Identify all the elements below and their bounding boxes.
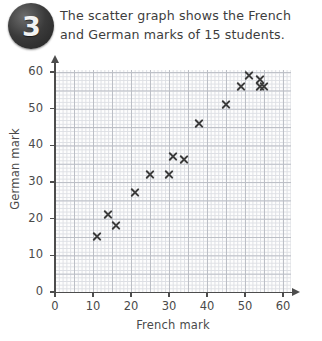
x-tick bbox=[54, 292, 55, 297]
scatter-chart: 0102030405060 0102030405060 French mark … bbox=[0, 52, 322, 341]
data-point bbox=[145, 169, 156, 180]
y-tick-label: 50 bbox=[3, 101, 43, 115]
question-number-badge: 3 bbox=[8, 3, 54, 49]
y-tick bbox=[50, 71, 55, 72]
x-tick bbox=[282, 292, 283, 297]
data-point bbox=[129, 187, 140, 198]
data-point bbox=[194, 118, 205, 129]
x-tick-label: 50 bbox=[230, 299, 260, 313]
data-point bbox=[179, 154, 190, 165]
x-tick-label: 40 bbox=[192, 299, 222, 313]
y-axis-title: German mark bbox=[8, 123, 22, 215]
question-text: The scatter graph shows the French and G… bbox=[60, 6, 318, 44]
data-point bbox=[221, 99, 232, 110]
data-point bbox=[236, 81, 247, 92]
y-axis-line bbox=[54, 62, 56, 293]
question-text-line-2: and German marks of 15 students. bbox=[60, 25, 318, 44]
question-text-line-1: The scatter graph shows the French bbox=[60, 6, 318, 25]
x-tick-label: 20 bbox=[116, 299, 146, 313]
data-point bbox=[110, 220, 121, 231]
data-point bbox=[243, 70, 254, 81]
x-tick-label: 60 bbox=[268, 299, 298, 313]
question-number: 3 bbox=[8, 3, 54, 49]
x-tick-label: 30 bbox=[154, 299, 184, 313]
x-axis-title: French mark bbox=[55, 318, 291, 332]
data-point bbox=[259, 81, 270, 92]
data-point bbox=[164, 169, 175, 180]
y-tick bbox=[50, 255, 55, 256]
x-tick-label: 10 bbox=[78, 299, 108, 313]
question-header: 3 The scatter graph shows the French and… bbox=[0, 0, 322, 52]
x-axis-arrow-icon bbox=[292, 288, 300, 296]
data-point bbox=[91, 231, 102, 242]
y-tick-label: 0 bbox=[3, 284, 43, 298]
y-tick bbox=[50, 145, 55, 146]
x-tick bbox=[92, 292, 93, 297]
y-tick-label: 10 bbox=[3, 247, 43, 261]
data-point bbox=[103, 209, 114, 220]
x-tick-label: 0 bbox=[40, 299, 70, 313]
x-tick bbox=[130, 292, 131, 297]
x-tick bbox=[244, 292, 245, 297]
x-axis-line bbox=[54, 292, 294, 294]
y-axis-arrow-icon bbox=[51, 55, 59, 63]
x-tick bbox=[168, 292, 169, 297]
y-tick bbox=[50, 108, 55, 109]
data-point bbox=[167, 151, 178, 162]
y-tick bbox=[50, 218, 55, 219]
graph-paper-grid bbox=[55, 70, 291, 292]
x-tick bbox=[206, 292, 207, 297]
y-tick-label: 60 bbox=[3, 64, 43, 78]
y-tick bbox=[50, 181, 55, 182]
